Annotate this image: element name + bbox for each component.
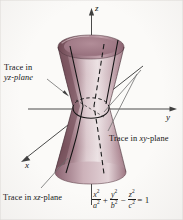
equation-term-1: x2 a2: [92, 189, 101, 210]
equation-term-3: z2 c2: [128, 189, 136, 210]
trace-xy-label-prefix: Trace in: [109, 134, 139, 143]
trace-yz-label-line1: Trace in: [4, 63, 33, 73]
trace-xz-label-prefix: Trace in: [3, 193, 33, 202]
figure-canvas: [0, 0, 183, 220]
leader-yz: [47, 79, 69, 97]
y-axis-label: y: [166, 112, 170, 122]
trace-yz-label: Trace in yz-plane: [4, 63, 33, 83]
x-axis-label: x: [25, 160, 29, 170]
trace-xz-label-suffix: -plane: [41, 193, 63, 202]
equation-term-3-numerator: z2: [128, 189, 136, 199]
trace-xz-label: Trace in xz-plane: [3, 193, 62, 203]
equation-operator-2: −: [120, 195, 126, 205]
trace-xz-label-plane: xz: [33, 193, 40, 202]
equation-term-1-numerator: x2: [92, 189, 100, 199]
trace-xy-label-plane: xy: [139, 134, 147, 143]
surface-equation: x2 a2 + y2 b2 − z2 c2 = 1: [92, 189, 149, 210]
trace-yz-label-line2: yz-plane: [4, 73, 33, 83]
equation-term-3-denominator: c2: [128, 200, 136, 210]
equation-operator-1: +: [102, 195, 108, 205]
z-axis-label: z: [95, 3, 99, 13]
equation-term-2: y2 b2: [110, 189, 119, 210]
trace-xy-label-suffix: -plane: [147, 134, 169, 143]
equation-term-2-denominator: b2: [110, 200, 119, 210]
trace-xy-label: Trace in xy-plane: [109, 134, 169, 144]
hyperboloid-figure: z y x Trace in yz-plane Trace in xy-plan…: [0, 0, 183, 220]
equation-term-2-numerator: y2: [110, 189, 118, 199]
equation-term-1-denominator: a2: [92, 200, 101, 210]
equation-equals: = 1: [137, 195, 149, 205]
